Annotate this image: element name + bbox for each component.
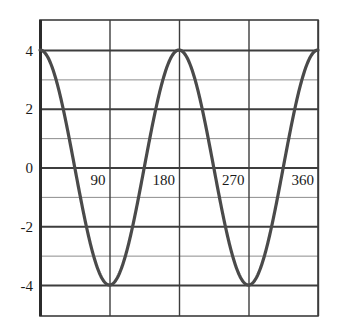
cosine-plot: 420-2-4 90180270360 [0, 0, 347, 336]
y-tick-label: 0 [26, 160, 34, 176]
chart-container: 420-2-4 90180270360 [0, 0, 347, 336]
x-tick-label: 270 [222, 172, 245, 188]
x-tick-label: 180 [153, 172, 176, 188]
y-tick-label: -2 [21, 219, 34, 235]
y-tick-label: 2 [26, 101, 34, 117]
y-tick-label: 4 [26, 43, 34, 59]
x-tick-label: 90 [91, 172, 106, 188]
y-tick-label: -4 [21, 278, 34, 294]
x-tick-label: 360 [292, 172, 315, 188]
